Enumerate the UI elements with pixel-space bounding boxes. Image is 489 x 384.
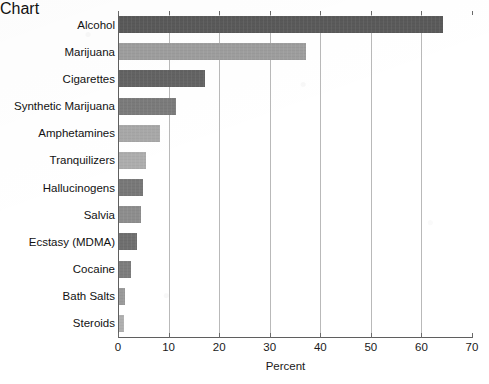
x-tick-label-20: 20 bbox=[204, 341, 234, 354]
tick-top-20 bbox=[219, 11, 220, 15]
bar-marijuana bbox=[119, 43, 306, 60]
x-axis-line bbox=[118, 337, 473, 338]
tick-bottom-20 bbox=[219, 333, 220, 338]
tick-top-40 bbox=[320, 11, 321, 15]
tick-bottom-60 bbox=[421, 333, 422, 338]
tick-bottom-70 bbox=[472, 333, 473, 338]
tick-top-60 bbox=[421, 11, 422, 15]
x-tick-label-50: 50 bbox=[356, 341, 386, 354]
x-tick-label-10: 10 bbox=[154, 341, 184, 354]
bar-cocaine bbox=[119, 261, 131, 278]
category-label: Amphetamines bbox=[38, 126, 115, 140]
category-label: Tranquilizers bbox=[50, 153, 115, 167]
tick-bottom-10 bbox=[169, 333, 170, 338]
y-axis-line bbox=[118, 11, 119, 338]
x-tick-label-40: 40 bbox=[305, 341, 335, 354]
bar-steroids bbox=[119, 315, 124, 332]
bar-cigarettes bbox=[119, 70, 205, 87]
tick-top-30 bbox=[270, 11, 271, 15]
category-label: Steroids bbox=[73, 316, 115, 330]
bar-salvia bbox=[119, 206, 141, 223]
tick-bottom-0 bbox=[118, 333, 119, 338]
bar-bath-salts bbox=[119, 288, 125, 305]
gridline-50 bbox=[371, 11, 372, 337]
x-tick-label-70: 70 bbox=[457, 341, 487, 354]
category-label: Alcohol bbox=[77, 18, 115, 32]
tick-top-70 bbox=[472, 11, 473, 15]
x-tick-label-0: 0 bbox=[103, 341, 133, 354]
category-label: Synthetic Marijuana bbox=[14, 99, 115, 113]
tick-top-10 bbox=[169, 11, 170, 15]
gridline-60 bbox=[421, 11, 422, 337]
category-label: Ecstasy (MDMA) bbox=[29, 235, 115, 249]
x-tick-label-60: 60 bbox=[406, 341, 436, 354]
tick-top-0 bbox=[118, 11, 119, 15]
x-axis-title: Percent bbox=[0, 360, 489, 372]
category-label: Cigarettes bbox=[63, 72, 115, 86]
x-tick-label-30: 30 bbox=[255, 341, 285, 354]
tick-bottom-50 bbox=[371, 333, 372, 338]
bar-ecstasy-mdma bbox=[119, 233, 137, 250]
category-label: Cocaine bbox=[73, 262, 115, 276]
bar-amphetamines bbox=[119, 125, 160, 142]
x-axis-title-text: Percent bbox=[266, 360, 306, 372]
bar-alcohol bbox=[119, 16, 443, 33]
bar-hallucinogens bbox=[119, 179, 143, 196]
tick-top-50 bbox=[371, 11, 372, 15]
category-label: Bath Salts bbox=[63, 289, 115, 303]
bar-tranquilizers bbox=[119, 152, 146, 169]
gridline-40 bbox=[320, 11, 321, 337]
category-label: Salvia bbox=[84, 208, 115, 222]
tick-bottom-30 bbox=[270, 333, 271, 338]
category-label: Marijuana bbox=[65, 45, 116, 59]
category-label: Hallucinogens bbox=[43, 181, 115, 195]
tick-bottom-40 bbox=[320, 333, 321, 338]
bar-chart: 010203040506070 AlcoholMarijuanaCigarett… bbox=[0, 0, 489, 384]
bar-synthetic-marijuana bbox=[119, 98, 176, 115]
